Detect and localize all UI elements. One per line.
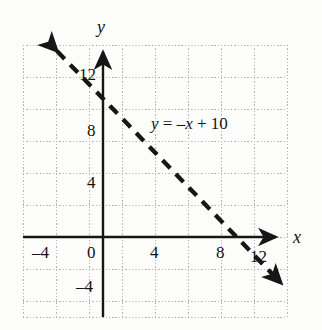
x-tick-neg4: –4 xyxy=(32,244,49,261)
y-axis-label: y xyxy=(97,18,105,36)
y-tick-8: 8 xyxy=(87,122,96,139)
y-tick-4: 4 xyxy=(87,174,96,191)
figure-canvas: y x 12 8 4 –4 –4 0 4 8 12 y = –x + 10 xyxy=(0,0,322,330)
coordinate-plane xyxy=(0,0,322,330)
x-tick-0: 0 xyxy=(87,244,96,261)
x-tick-8: 8 xyxy=(216,244,225,261)
equation-equals: = xyxy=(163,114,173,133)
y-tick-12: 12 xyxy=(79,66,96,83)
equation-constant: 10 xyxy=(211,114,228,133)
equation-annotation: y = –x + 10 xyxy=(151,115,228,132)
equation-variable-x: x xyxy=(185,114,193,133)
grid-lines xyxy=(23,45,287,317)
y-tick-neg4: –4 xyxy=(76,278,93,295)
equation-minus: – xyxy=(177,114,186,133)
x-tick-4: 4 xyxy=(150,244,159,261)
equation-plus: + xyxy=(197,114,207,133)
x-axis-label: x xyxy=(293,228,301,246)
equation-lhs: y xyxy=(151,114,159,133)
x-tick-12: 12 xyxy=(250,248,267,265)
